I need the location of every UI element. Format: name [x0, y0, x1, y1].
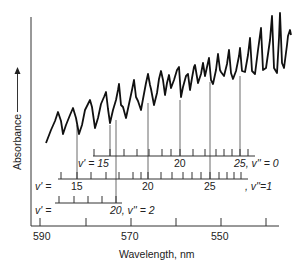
v0-label-vprime-15: v' = 15: [78, 157, 109, 169]
arrow-up-icon: [15, 67, 21, 74]
v2-label-20: 20, v'' = 2: [109, 204, 155, 216]
x-tick-label-570: 570: [121, 230, 139, 242]
progression-ladder-v1: [58, 172, 248, 179]
x-tick-label-590: 590: [33, 230, 51, 242]
v0-label-25: 25, v'' = 0: [233, 157, 279, 169]
v1-label-vprime: v' =: [35, 180, 51, 192]
v1-label-25: 25: [204, 180, 216, 192]
v2-label-vprime: v' =: [35, 204, 51, 216]
progression-ladder-v2: [55, 196, 122, 203]
absorption-spectrum-chart: 590 570 550 Wavelength, nm Absorbance: [0, 0, 296, 268]
spectrum-trace: [46, 13, 291, 143]
x-ticks: [40, 218, 266, 226]
y-axis-label: Absorbance: [11, 114, 23, 170]
v1-label-20: 20: [142, 180, 154, 192]
y-axis-label-group: Absorbance: [11, 67, 23, 170]
x-tick-label-550: 550: [211, 230, 229, 242]
x-axis-label: Wavelength, nm: [119, 248, 195, 260]
v1-label-end: , v''=1: [245, 180, 272, 192]
v0-label-20: 20: [174, 157, 186, 169]
progression-ladder-v0: [93, 149, 255, 156]
v1-label-15: 15: [71, 180, 83, 192]
